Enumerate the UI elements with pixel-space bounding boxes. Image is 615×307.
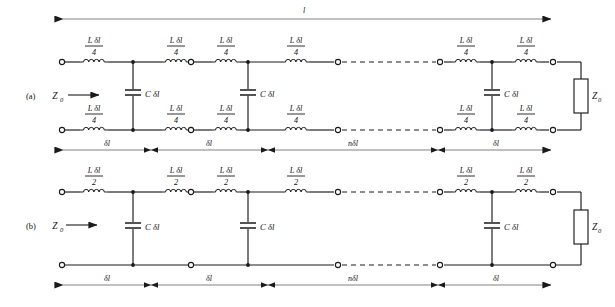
terminal-a-mid-bottom-3 <box>437 127 442 132</box>
terminal-b-mid-top-1 <box>188 189 193 194</box>
svg-text:L δl: L δl <box>87 36 101 45</box>
inductor-icon-a-bot-4 <box>282 127 310 130</box>
svg-text:L δl: L δl <box>519 104 533 113</box>
dimension-label-l: l <box>303 6 306 15</box>
tick-b-1-left <box>144 282 151 288</box>
inductor-icon-a-top-5 <box>452 59 480 62</box>
inductor-icon-a-top-6 <box>512 59 540 62</box>
shunt-branch-a-3: C δl <box>484 60 519 132</box>
svg-text:L δl: L δl <box>289 36 303 45</box>
segment-label-b-3: nδl <box>348 274 359 283</box>
resistor-box-b <box>574 210 588 244</box>
svg-text:4: 4 <box>174 116 178 125</box>
terminal-a-mid-top-1 <box>188 59 193 64</box>
source-impedance-sub-a: 0 <box>60 96 64 103</box>
series-label-a-top-2: L δl 4 <box>167 36 185 57</box>
svg-text:2: 2 <box>464 178 468 187</box>
shunt-branch-a-2: C δl <box>240 60 275 132</box>
tick-b-3-left <box>431 282 438 288</box>
inductor-icon-a-top-2 <box>162 59 190 62</box>
svg-text:L δl: L δl <box>459 104 473 113</box>
terminal-b-mid-bottom-1 <box>188 262 193 267</box>
terminal-a-mid-bottom-2 <box>335 127 340 132</box>
source-impedance-sub-b: 0 <box>60 226 64 233</box>
svg-text:4: 4 <box>294 116 298 125</box>
series-label-b-3: L δl 2 <box>217 166 235 187</box>
terminal-b-output-bottom <box>550 262 555 267</box>
segment-label-b-2: δl <box>206 274 213 283</box>
tick-a-3-right <box>438 147 445 153</box>
inductor-icon-a-bot-3 <box>212 127 240 130</box>
svg-text:4: 4 <box>464 116 468 125</box>
terminal-b-mid-bottom-2 <box>335 262 340 267</box>
svg-text:4: 4 <box>174 48 178 57</box>
series-label-a-bot-3: L δl 4 <box>217 104 235 125</box>
svg-text:4: 4 <box>92 48 96 57</box>
junction-b1-top <box>131 190 135 194</box>
series-label-b-6: L δl 2 <box>517 166 535 187</box>
capacitor-label-a2: C δl <box>260 89 275 99</box>
tick-a-1-right <box>151 147 158 153</box>
series-label-a-top-5: L δl 4 <box>457 36 475 57</box>
segment-dimensions-b: δl δl nδl δl <box>63 274 551 288</box>
series-label-b-1: L δl 2 <box>85 166 103 187</box>
terminal-a-mid-top-3 <box>437 59 442 64</box>
series-label-a-bot-4: L δl 4 <box>287 104 305 125</box>
tick-a-3-left <box>431 147 438 153</box>
top-rail-a <box>62 59 581 62</box>
terminal-b-input-top <box>59 189 64 194</box>
tick-a-1-left <box>144 147 151 153</box>
terminal-a-mid-bottom-1 <box>188 127 193 132</box>
terminal-b-mid-bottom-3 <box>437 262 442 267</box>
inductor-icon-b-top-1 <box>80 189 108 192</box>
figure-canvas: l (a) Z 0 <box>0 0 615 307</box>
capacitor-label-b2: C δl <box>260 222 275 232</box>
svg-text:4: 4 <box>224 116 228 125</box>
junction-a2-top <box>246 60 250 64</box>
svg-text:L δl: L δl <box>87 104 101 113</box>
series-label-a-bot-1: L δl 4 <box>85 104 103 125</box>
panel-a: l (a) Z 0 <box>26 6 602 153</box>
tick-a-2-left <box>261 147 268 153</box>
panel-b: (b) Z 0 <box>26 166 602 288</box>
terminal-a-output-bottom <box>550 127 555 132</box>
shunt-branch-b-1: C δl <box>125 190 160 267</box>
svg-text:2: 2 <box>224 178 228 187</box>
series-label-a-top-1: L δl 4 <box>85 36 103 57</box>
tick-b-3-right <box>438 282 445 288</box>
panel-label-a: (a) <box>26 91 36 101</box>
capacitor-label-b1: C δl <box>145 222 160 232</box>
junction-b1-bot <box>131 263 135 267</box>
svg-text:L δl: L δl <box>219 36 233 45</box>
svg-text:L δl: L δl <box>169 36 183 45</box>
load-resistor-b: Z 0 <box>574 192 602 265</box>
terminal-a-mid-top-2 <box>335 59 340 64</box>
svg-text:2: 2 <box>174 178 178 187</box>
tick-b-2-right <box>268 282 275 288</box>
series-labels-a-bottom: L δl 4 L δl 4 L δl 4 L δl 4 L δl <box>85 104 535 125</box>
inductor-icon-a-top-1 <box>80 59 108 62</box>
svg-text:L δl: L δl <box>219 166 233 175</box>
series-labels-a-top: L δl 4 L δl 4 L δl 4 L δl 4 L δl <box>85 36 535 57</box>
svg-text:L δl: L δl <box>169 166 183 175</box>
svg-text:4: 4 <box>224 48 228 57</box>
resistor-box-a <box>574 79 588 113</box>
terminal-a-input-top <box>59 59 64 64</box>
series-label-a-bot-6: L δl 4 <box>517 104 535 125</box>
series-label-a-bot-5: L δl 4 <box>457 104 475 125</box>
svg-text:4: 4 <box>464 48 468 57</box>
source-impedance-label-b: Z <box>52 221 58 231</box>
terminal-b-mid-top-2 <box>335 189 340 194</box>
series-labels-b: L δl 2 L δl 2 L δl 2 L δl 2 L δl <box>85 166 535 187</box>
svg-text:2: 2 <box>524 178 528 187</box>
inductor-icon-b-top-6 <box>512 189 540 192</box>
inductor-icon-b-top-4 <box>282 189 310 192</box>
svg-text:L δl: L δl <box>289 166 303 175</box>
inductor-icon-a-top-4 <box>282 59 310 62</box>
terminal-b-output-top <box>550 189 555 194</box>
junction-a2-bot <box>246 128 250 132</box>
series-label-a-top-4: L δl 4 <box>287 36 305 57</box>
tick-a-2-right <box>268 147 275 153</box>
terminal-a-output-top <box>550 59 555 64</box>
inductor-icon-a-bot-5 <box>452 127 480 130</box>
